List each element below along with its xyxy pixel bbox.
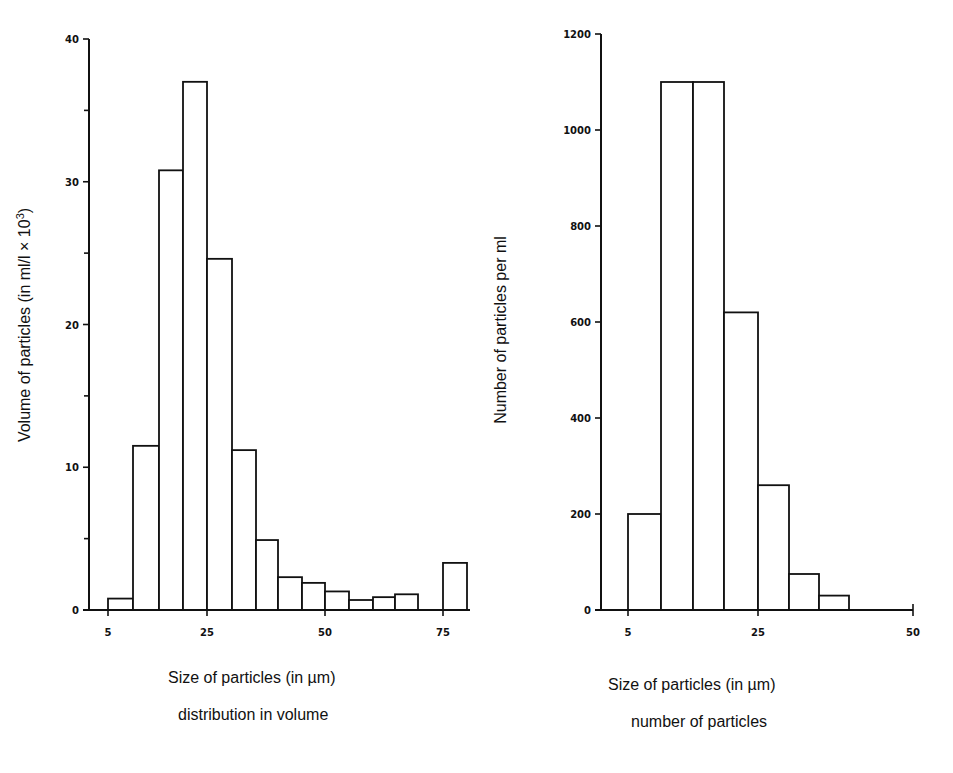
histogram-bar <box>661 82 693 610</box>
y-axis-title: Number of particles per ml <box>492 236 509 424</box>
histogram-bar <box>443 563 467 610</box>
histogram-bar <box>758 485 789 610</box>
histogram-bars <box>108 82 467 610</box>
histogram-bar <box>395 594 418 610</box>
x-tick-label: 50 <box>906 627 920 638</box>
y-tick-label: 1000 <box>563 125 591 136</box>
x-tick-label: 5 <box>105 627 112 638</box>
volume-distribution-histogram: 0102030405255075 Volume of particles (in… <box>14 34 470 723</box>
chart-subcaption: number of particles <box>631 713 767 730</box>
histogram-bar <box>302 583 325 610</box>
histogram-bars <box>628 82 849 610</box>
histogram-bar <box>278 577 302 610</box>
x-axis-title: Size of particles (in µm) <box>168 669 335 686</box>
histogram-bar <box>207 259 232 610</box>
y-tick-label: 600 <box>570 317 591 328</box>
y-tick-label: 800 <box>570 221 591 232</box>
histogram-bar <box>724 312 758 610</box>
y-tick-label: 40 <box>65 34 79 45</box>
histogram-bar <box>183 82 207 610</box>
y-tick-label: 200 <box>570 509 591 520</box>
x-tick-label: 5 <box>625 627 632 638</box>
histogram-bar <box>159 170 183 610</box>
y-tick-label: 0 <box>72 605 79 616</box>
y-axis-title: Volume of particles (in ml/l × 103) <box>14 208 33 442</box>
histogram-bar <box>628 514 661 610</box>
chart-subcaption: distribution in volume <box>178 706 328 723</box>
x-tick-label: 50 <box>318 627 332 638</box>
histogram-bar <box>325 591 349 610</box>
histogram-bar <box>232 450 256 610</box>
particle-count-histogram: 02004006008001000120052550 Number of par… <box>492 29 920 730</box>
x-axis-title: Size of particles (in µm) <box>608 676 775 693</box>
y-tick-label: 0 <box>584 605 591 616</box>
x-tick-label: 25 <box>200 627 214 638</box>
histogram-bar <box>693 82 724 610</box>
histogram-bar <box>349 600 373 610</box>
x-tick-label: 25 <box>751 627 765 638</box>
figure: 0102030405255075 Volume of particles (in… <box>0 0 953 773</box>
histogram-bar <box>819 596 849 610</box>
histogram-bar <box>133 446 159 610</box>
y-tick-label: 30 <box>65 177 79 188</box>
y-tick-label: 400 <box>570 413 591 424</box>
histogram-bar <box>789 574 819 610</box>
y-tick-label: 10 <box>65 462 79 473</box>
x-tick-label: 75 <box>436 627 450 638</box>
histogram-bar <box>256 540 278 610</box>
y-tick-label: 20 <box>65 320 79 331</box>
y-tick-label: 1200 <box>563 29 591 40</box>
histogram-bar <box>373 597 395 610</box>
histogram-bar <box>108 599 133 610</box>
